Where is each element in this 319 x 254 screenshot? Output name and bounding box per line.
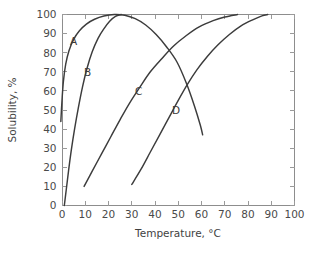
x-tick-label: 20	[102, 208, 115, 220]
x-tick-label: 90	[265, 208, 278, 220]
x-tick-label: 10	[79, 208, 92, 220]
curve-label-b: B	[84, 66, 91, 78]
chart-canvas: 0102030405060708090100 01020304050607080…	[0, 0, 319, 254]
x-tick-label: 50	[172, 208, 185, 220]
data-curves	[61, 14, 268, 205]
x-tick-label: 60	[195, 208, 208, 220]
x-tick-label: 70	[218, 208, 231, 220]
x-tick-label: 30	[125, 208, 138, 220]
y-tick-label: 10	[43, 180, 56, 192]
curve-labels: ABCD	[70, 35, 180, 116]
y-tick-label: 30	[43, 142, 56, 154]
x-tick-label: 40	[148, 208, 161, 220]
curve-label-c: C	[135, 85, 142, 97]
y-tick-label: 60	[43, 85, 56, 97]
x-tick-label: 100	[284, 208, 304, 220]
curve-a	[61, 14, 203, 134]
y-tick-label: 90	[43, 27, 56, 39]
curve-label-a: A	[70, 35, 78, 47]
x-axis-title: Temperature, °C	[134, 227, 221, 239]
x-tick-label: 0	[59, 208, 66, 220]
y-tick-label: 50	[43, 104, 56, 116]
y-tick-label: 100	[36, 8, 56, 20]
y-tick-label: 80	[43, 47, 56, 59]
curve-d	[132, 15, 268, 185]
y-tick-label: 0	[50, 199, 57, 211]
y-tick-label: 20	[43, 161, 56, 173]
x-axis-tick-labels: 0102030405060708090100	[59, 208, 305, 220]
x-tick-label: 80	[241, 208, 254, 220]
solubility-temperature-chart: 0102030405060708090100 01020304050607080…	[0, 0, 319, 254]
y-tick-label: 40	[43, 123, 56, 135]
y-axis-tick-labels: 0102030405060708090100	[36, 8, 56, 211]
y-axis-title: Solubility, %	[6, 77, 18, 142]
curve-label-d: D	[172, 104, 180, 116]
y-tick-label: 70	[43, 66, 56, 78]
